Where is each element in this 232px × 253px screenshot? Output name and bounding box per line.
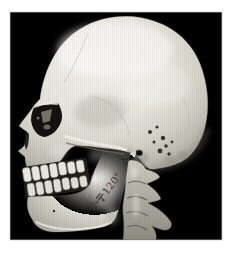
skull: 120° [10,12,222,240]
ct-skull-render: 120° [0,0,232,253]
figure-page: 120° [0,0,232,253]
scanline-overlay [10,12,222,240]
